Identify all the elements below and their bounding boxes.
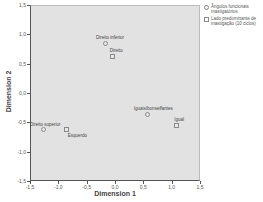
point-label: Iguais/bonseffantes [134,106,173,111]
x-tick-mark [87,181,88,184]
y-tick-mark [27,34,30,35]
x-tick-mark [172,181,173,184]
square-marker-icon [204,17,209,22]
x-tick-mark [200,181,201,184]
point-label: Igual [174,117,184,122]
y-tick-mark [27,64,30,65]
square-marker-icon [64,127,69,132]
x-tick-mark [115,181,116,184]
square-marker-icon [110,54,115,59]
x-tick-mark [30,181,31,184]
circle-marker-icon [204,5,209,10]
legend: Ângulos funcionais mastigatórios Lado pr… [204,4,262,28]
legend-label: Lado predominante de mastigação (10 cicl… [211,16,262,26]
legend-item-angles: Ângulos funcionais mastigatórios [204,4,262,14]
legend-label: Ângulos funcionais mastigatórios [211,4,262,14]
y-tick-label: 1,5 [4,2,26,8]
plot-area [30,5,200,181]
y-tick-mark [27,5,30,6]
y-tick-label: -1,0 [4,149,26,155]
point-label: Esquerdo [68,133,87,138]
point-label: Direito [110,48,123,53]
square-marker-icon [174,123,179,128]
x-tick-label: -1,5 [20,184,40,190]
x-tick-label: -1,0 [48,184,68,190]
x-tick-mark [143,181,144,184]
x-tick-mark [58,181,59,184]
legend-item-side: Lado predominante de mastigação (10 cicl… [204,16,262,26]
x-tick-label: 1,5 [190,184,210,190]
y-tick-label: 1,0 [4,31,26,37]
y-tick-mark [27,93,30,94]
y-axis-label: Dimension 2 [5,62,12,122]
x-axis-label: Dimension 1 [80,190,150,197]
point-label: Direito superior [30,122,61,127]
x-tick-label: 1,0 [162,184,182,190]
point-label: Direito inferior [96,35,124,40]
y-tick-mark [27,152,30,153]
